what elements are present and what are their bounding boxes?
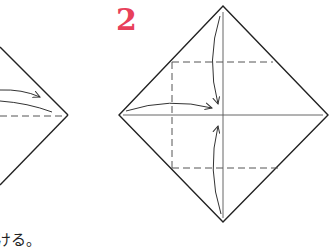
origami-diagram	[0, 0, 334, 247]
fold-arrow	[0, 90, 40, 97]
step-number: 2	[116, 5, 137, 35]
paper-edge-lower	[0, 115, 68, 185]
instruction-caption: ける。	[0, 228, 41, 247]
previous-step-diagram	[0, 47, 68, 185]
step-2-diagram	[119, 6, 328, 222]
fold-arrow-tail	[0, 101, 52, 112]
paper-edge-upper	[0, 47, 68, 115]
paper-square-diamond	[119, 6, 328, 222]
